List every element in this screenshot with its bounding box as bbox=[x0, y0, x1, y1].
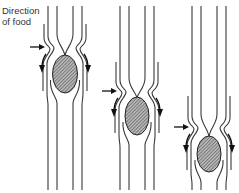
esophagus-stage-3 bbox=[174, 6, 235, 190]
direction-arrow-head bbox=[39, 44, 45, 50]
inner-wall-right bbox=[65, 6, 80, 190]
food-bolus bbox=[197, 136, 221, 172]
direction-arrow-head bbox=[111, 88, 117, 94]
food-bolus bbox=[125, 97, 149, 135]
contraction-arrowhead-right bbox=[229, 145, 235, 153]
direction-arrow-head bbox=[183, 124, 189, 130]
contraction-arrowhead-left bbox=[111, 109, 117, 117]
contraction-arrowhead-right bbox=[157, 109, 163, 117]
esophagus-stage-2 bbox=[102, 6, 163, 190]
outer-wall-left bbox=[47, 6, 54, 190]
outer-wall-right bbox=[76, 6, 83, 190]
peristalsis-diagram bbox=[0, 0, 239, 193]
contraction-arrowhead-left bbox=[183, 145, 189, 153]
contraction-arrowhead-right bbox=[85, 65, 91, 73]
contraction-arrowhead-left bbox=[39, 65, 45, 73]
esophagus-stage-1 bbox=[30, 6, 91, 190]
inner-wall-left bbox=[50, 6, 65, 190]
food-bolus bbox=[53, 55, 78, 93]
